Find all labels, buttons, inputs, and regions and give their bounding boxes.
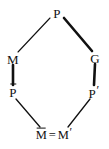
node-p-bar-lower-left: P [9, 86, 16, 99]
node-p-bar-glyph: P [9, 86, 16, 99]
node-p-top: P [53, 7, 60, 20]
lattice-diagram: P M G P P′ M=M′ [0, 0, 109, 149]
prime-accent-icon: ′ [97, 83, 100, 97]
node-p-bar-base: P [9, 85, 16, 100]
node-m-bar-base: M [36, 128, 47, 142]
node-p-prime-base: P [89, 86, 96, 101]
prime-accent-icon: ′ [70, 125, 73, 139]
node-g-right: G [90, 52, 100, 65]
node-mbar-eq-mprime-bottom: M=M′ [36, 127, 73, 142]
edge-pprime-to-mprime [68, 99, 90, 127]
node-p-top-label: P [53, 6, 60, 21]
node-p-prime-lower-right: P′ [89, 84, 100, 99]
overline-accent-icon [37, 127, 46, 128]
edge-p-to-m [18, 18, 50, 52]
edge-p-to-g [64, 18, 92, 51]
node-m-bar-glyph: M [36, 129, 47, 142]
overline-accent-icon [10, 84, 16, 85]
edge-g-to-pprime [94, 64, 95, 85]
node-g-right-label: G [90, 51, 100, 66]
edge-pbar-to-mbar [16, 99, 40, 127]
node-m-prime-base: M [58, 128, 69, 142]
node-m-left: M [7, 53, 19, 66]
node-m-left-label: M [7, 52, 19, 67]
equals-relation-symbol: = [49, 128, 56, 142]
